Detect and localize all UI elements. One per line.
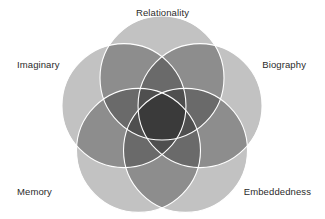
venn-label-imaginary: Imaginary <box>17 59 60 71</box>
venn-diagram-figure: Relationality Imaginary Biography Memory… <box>0 0 325 219</box>
venn-label-biography: Biography <box>262 59 306 71</box>
venn-label-relationality: Relationality <box>0 7 325 19</box>
venn-label-embeddedness: Embeddedness <box>244 186 311 198</box>
venn-label-memory: Memory <box>17 186 52 198</box>
